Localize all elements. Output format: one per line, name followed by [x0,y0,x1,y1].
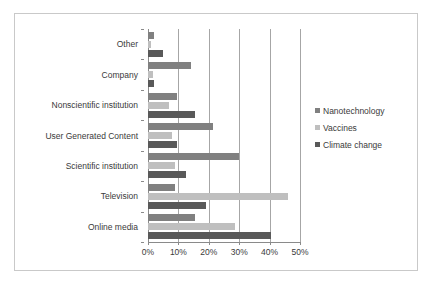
legend-swatch-icon [315,108,320,113]
bar-group [148,59,300,89]
bar-row [148,50,300,57]
x-axis-label-10: 10% [170,247,187,257]
bar-nanotechnology-user-generated-content[interactable] [148,123,213,130]
bar-row [148,214,300,221]
y-axis-label-user-generated-content: User Generated Content [45,131,138,141]
bar-row [148,62,300,69]
y-axis-tick [141,59,144,60]
bar-group [148,90,300,120]
bar-nanotechnology-other[interactable] [148,32,154,39]
plot-area [148,29,300,242]
chart-frame: OtherCompanyNonscientific institutionUse… [14,13,418,271]
x-axis-tick [239,242,240,245]
legend-item-vaccines[interactable]: Vaccines [315,119,415,136]
y-axis-label-scientific-institution: Scientific institution [66,161,138,171]
bar-group [148,29,300,59]
bar-row [148,80,300,87]
legend: NanotechnologyVaccinesClimate change [315,102,415,153]
bar-climate-other[interactable] [148,50,163,57]
bar-row [148,41,300,48]
bar-nanotechnology-television[interactable] [148,184,175,191]
bar-climate-scientific-institution[interactable] [148,171,186,178]
bar-group [148,151,300,181]
bar-climate-nonscientific-institution[interactable] [148,111,195,118]
y-axis-tick [141,120,144,121]
legend-swatch-icon [315,125,320,130]
bar-row [148,193,300,200]
x-axis-label-40: 40% [261,247,278,257]
bar-row [148,153,300,160]
x-axis-tick [270,242,271,245]
y-axis-label-nonscientific-institution: Nonscientific institution [52,100,138,110]
bar-nanotechnology-scientific-institution[interactable] [148,153,239,160]
bar-vaccines-company[interactable] [148,71,153,78]
bar-vaccines-nonscientific-institution[interactable] [148,102,169,109]
bar-nanotechnology-online-media[interactable] [148,214,195,221]
bar-vaccines-scientific-institution[interactable] [148,162,175,169]
legend-item-label: Climate change [323,140,382,150]
x-axis: 0%10%20%30%40%50% [148,242,300,264]
x-axis-label-20: 20% [200,247,217,257]
x-axis-tick [178,242,179,245]
bar-row [148,141,300,148]
bar-group [148,120,300,150]
bar-row [148,184,300,191]
bar-climate-online-media[interactable] [148,232,271,239]
x-axis-tick [148,242,149,245]
bar-row [148,132,300,139]
x-axis-tick [209,242,210,245]
bar-row [148,202,300,209]
bar-climate-user-generated-content[interactable] [148,141,177,148]
y-axis-tick [141,90,144,91]
bar-row [148,71,300,78]
legend-item-label: Nanotechnology [323,106,384,116]
x-axis-label-50: 50% [291,247,308,257]
bar-groups [148,29,300,242]
y-axis-label-company: Company [102,70,138,80]
bar-row [148,162,300,169]
bar-vaccines-television[interactable] [148,193,288,200]
bar-nanotechnology-company[interactable] [148,62,191,69]
bar-climate-television[interactable] [148,202,206,209]
bar-row [148,232,300,239]
bar-vaccines-user-generated-content[interactable] [148,132,172,139]
gridline-50 [300,29,301,242]
bar-row [148,223,300,230]
bar-row [148,111,300,118]
bar-row [148,171,300,178]
bar-row [148,93,300,100]
bar-climate-company[interactable] [148,80,154,87]
y-axis-tick [141,212,144,213]
y-axis-tick [141,29,144,30]
x-axis-label-0: 0% [142,247,154,257]
bar-group [148,212,300,242]
bar-vaccines-online-media[interactable] [148,223,235,230]
x-axis-tick [300,242,301,245]
legend-item-label: Vaccines [323,123,357,133]
y-axis-tick [141,151,144,152]
bar-vaccines-other[interactable] [148,41,151,48]
bar-row [148,123,300,130]
bar-nanotechnology-nonscientific-institution[interactable] [148,93,177,100]
legend-item-climate-change[interactable]: Climate change [315,136,415,153]
y-axis-label-television: Television [101,191,138,201]
legend-item-nanotechnology[interactable]: Nanotechnology [315,102,415,119]
x-axis-label-30: 30% [231,247,248,257]
y-axis-tick [141,181,144,182]
legend-swatch-icon [315,142,320,147]
bar-row [148,32,300,39]
y-axis: OtherCompanyNonscientific institutionUse… [23,29,144,242]
bar-group [148,181,300,211]
y-axis-label-other: Other [117,39,138,49]
y-axis-tick [141,242,144,243]
bar-row [148,102,300,109]
y-axis-label-online-media: Online media [88,222,138,232]
